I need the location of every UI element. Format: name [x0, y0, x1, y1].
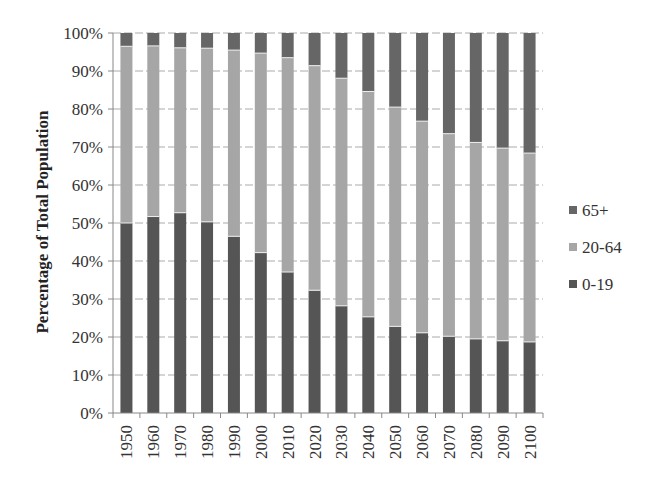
- bar-2080: [470, 33, 482, 413]
- bar-segment-65+: [201, 33, 213, 48]
- bar-2030: [335, 33, 347, 413]
- x-tick-label: 2080: [467, 425, 486, 459]
- legend-swatch: [569, 280, 577, 288]
- legend-label: 20-64: [582, 238, 622, 257]
- bar-segment-20-64: [443, 134, 455, 337]
- bar-segment-0-19: [228, 236, 240, 413]
- bar-segment-20-64: [470, 142, 482, 338]
- legend: 65+20-640-19: [569, 201, 622, 294]
- y-axis-label: Percentage of Total Population: [33, 110, 52, 334]
- bar-segment-0-19: [147, 217, 159, 413]
- x-tick-label: 2070: [440, 425, 459, 459]
- bar-segment-0-19: [443, 336, 455, 413]
- x-tick-label: 2020: [306, 425, 325, 459]
- y-tick-label: 100%: [63, 24, 103, 43]
- bar-segment-20-64: [201, 48, 213, 222]
- bar-segment-0-19: [389, 326, 401, 413]
- x-tick-label: 1990: [225, 425, 244, 459]
- bar-segment-0-19: [255, 253, 267, 413]
- y-tick-label: 70%: [72, 138, 103, 157]
- bar-segment-65+: [309, 33, 321, 66]
- bar-segment-20-64: [389, 107, 401, 326]
- bar-2010: [282, 33, 294, 413]
- y-tick-label: 90%: [72, 62, 103, 81]
- y-tick-label: 20%: [72, 328, 103, 347]
- bar-1950: [120, 33, 132, 413]
- y-tick-label: 10%: [72, 366, 103, 385]
- x-tick-label: 2100: [521, 425, 540, 459]
- bar-segment-20-64: [416, 121, 428, 333]
- x-tick-label: 2090: [494, 425, 513, 459]
- bar-segment-20-64: [147, 46, 159, 217]
- bar-segment-65+: [228, 33, 240, 50]
- bar-segment-65+: [524, 33, 536, 153]
- y-tick-label: 30%: [72, 290, 103, 309]
- y-tick-label: 50%: [72, 214, 103, 233]
- x-tick-label: 2030: [332, 425, 351, 459]
- bar-segment-0-19: [524, 342, 536, 413]
- bar-1970: [174, 33, 186, 413]
- x-tick-label: 1950: [117, 425, 136, 459]
- bar-segment-65+: [443, 33, 455, 134]
- legend-label: 65+: [582, 201, 609, 220]
- bar-segment-65+: [362, 33, 374, 92]
- y-axis: 0%10%20%30%40%50%60%70%80%90%100%: [63, 24, 113, 423]
- bar-1980: [201, 33, 213, 413]
- bar-2020: [309, 33, 321, 413]
- bar-segment-65+: [497, 33, 509, 148]
- bar-1990: [228, 33, 240, 413]
- legend-swatch: [569, 206, 577, 214]
- bar-2090: [497, 33, 509, 413]
- bar-2070: [443, 33, 455, 413]
- bar-2060: [416, 33, 428, 413]
- bar-2000: [255, 33, 267, 413]
- bar-segment-65+: [335, 33, 347, 78]
- x-tick-label: 2040: [359, 425, 378, 459]
- bar-2100: [524, 33, 536, 413]
- bar-segment-65+: [282, 33, 294, 58]
- bar-segment-20-64: [228, 50, 240, 236]
- legend-label: 0-19: [582, 275, 613, 294]
- bar-segment-20-64: [120, 46, 132, 223]
- bar-segment-0-19: [201, 222, 213, 413]
- x-tick-label: 2050: [386, 425, 405, 459]
- x-tick-label: 2010: [279, 425, 298, 459]
- y-tick-label: 60%: [72, 176, 103, 195]
- bar-segment-65+: [120, 33, 132, 46]
- bar-segment-20-64: [174, 48, 186, 213]
- bar-segment-20-64: [497, 148, 509, 341]
- bar-segment-20-64: [255, 53, 267, 253]
- stacked-bar-chart: 0%10%20%30%40%50%60%70%80%90%100% 195019…: [0, 0, 645, 480]
- bar-segment-0-19: [335, 306, 347, 413]
- y-tick-label: 40%: [72, 252, 103, 271]
- bar-segment-20-64: [362, 92, 374, 317]
- bar-segment-0-19: [362, 317, 374, 413]
- bar-segment-65+: [389, 33, 401, 107]
- x-tick-label: 1970: [171, 425, 190, 459]
- bar-2050: [389, 33, 401, 413]
- y-tick-label: 80%: [72, 100, 103, 119]
- x-axis: 1950196019701980199020002010202020302040…: [113, 413, 543, 459]
- bar-1960: [147, 33, 159, 413]
- bar-2040: [362, 33, 374, 413]
- bar-segment-0-19: [416, 333, 428, 413]
- bar-segment-0-19: [309, 290, 321, 413]
- x-tick-label: 1960: [144, 425, 163, 459]
- bar-segment-0-19: [470, 339, 482, 413]
- bar-segment-0-19: [120, 223, 132, 413]
- bar-segment-0-19: [282, 272, 294, 413]
- legend-swatch: [569, 243, 577, 251]
- x-tick-label: 1980: [198, 425, 217, 459]
- bar-segment-20-64: [309, 66, 321, 291]
- bar-segment-0-19: [497, 341, 509, 413]
- bar-segment-0-19: [174, 213, 186, 413]
- bar-segment-65+: [255, 33, 267, 53]
- bar-segment-20-64: [335, 78, 347, 306]
- bar-segment-65+: [147, 33, 159, 46]
- bar-segment-65+: [416, 33, 428, 121]
- y-tick-label: 0%: [80, 404, 103, 423]
- bar-segment-20-64: [524, 153, 536, 342]
- bar-segment-65+: [174, 33, 186, 48]
- x-tick-label: 2000: [252, 425, 271, 459]
- bar-segment-65+: [470, 33, 482, 142]
